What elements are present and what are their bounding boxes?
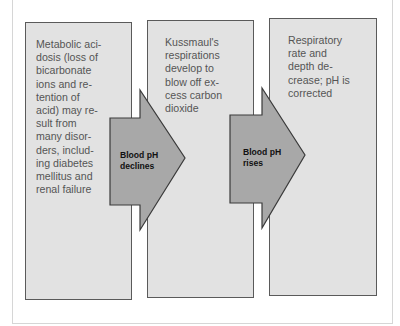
text-line: respirations [165, 49, 222, 62]
step-text-3: Respiratory rate and depth de- crease; p… [288, 34, 350, 100]
text-line: dioxide [165, 102, 222, 115]
text-line: Metabolic aci- [36, 38, 101, 51]
text-line: Blood pH [243, 147, 281, 158]
text-line: cess carbon [165, 89, 222, 102]
text-line: Respiratory [288, 34, 350, 47]
text-line: rises [243, 158, 281, 169]
text-line: crease; pH is [288, 74, 350, 87]
arrow-label-rises: Blood pH rises [243, 147, 281, 169]
text-line: Blood pH [120, 150, 158, 161]
text-line: acid) may re- [36, 104, 101, 117]
text-line: Kussmaul's [165, 36, 222, 49]
arrow-label-declines: Blood pH declines [120, 150, 158, 172]
text-line: dosis (loss of [36, 51, 101, 64]
text-line: sult from [36, 117, 101, 130]
text-line: develop to [165, 62, 222, 75]
text-line: bicarbonate [36, 64, 101, 77]
text-line: ders, includ- [36, 144, 101, 157]
text-line: many disor- [36, 130, 101, 143]
text-line: mellitus and [36, 170, 101, 183]
text-line: ions and re- [36, 78, 101, 91]
text-line: tention of [36, 91, 101, 104]
step-text-2: Kussmaul's respirations develop to blow … [165, 36, 222, 115]
text-line: corrected [288, 87, 350, 100]
text-line: renal failure [36, 183, 101, 196]
text-line: declines [120, 161, 158, 172]
text-line: depth de- [288, 60, 350, 73]
step-text-1: Metabolic aci- dosis (loss of bicarbonat… [36, 38, 101, 196]
text-line: rate and [288, 47, 350, 60]
text-line: ing diabetes [36, 157, 101, 170]
text-line: blow off ex- [165, 76, 222, 89]
